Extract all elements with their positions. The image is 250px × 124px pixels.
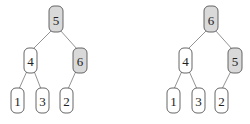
node-label: 1	[170, 94, 177, 109]
node-label: 5	[232, 54, 239, 69]
tree-node-ll: 1	[11, 88, 24, 113]
tree-after-swap: 645132	[167, 6, 242, 113]
node-label: 2	[63, 94, 70, 109]
tree-before-swap: 546132	[11, 6, 87, 113]
node-label: 6	[77, 54, 84, 69]
edge-left-ll	[19, 71, 27, 89]
node-label: 6	[208, 13, 215, 28]
edge-left-ll	[174, 71, 182, 89]
tree-node-right: 5	[228, 48, 242, 73]
node-label: 4	[27, 54, 34, 69]
nodes-layer: 546132645132	[11, 6, 242, 113]
tree-node-left: 4	[24, 48, 37, 73]
tree-node-rl: 2	[215, 88, 228, 113]
tree-node-right: 6	[73, 48, 87, 73]
node-label: 3	[195, 94, 202, 109]
tree-node-rl: 2	[60, 88, 73, 113]
heap-swap-diagram: 546132645132	[0, 0, 250, 124]
edge-root-left	[33, 30, 52, 49]
tree-node-lr: 3	[192, 88, 205, 113]
edge-root-left	[188, 30, 207, 49]
edge-root-right	[60, 30, 77, 49]
node-label: 3	[39, 94, 46, 109]
node-label: 5	[53, 13, 60, 28]
edge-left-lr	[189, 71, 197, 89]
edge-root-right	[215, 30, 232, 49]
node-label: 4	[182, 54, 189, 69]
tree-node-root: 6	[204, 6, 218, 32]
node-label: 1	[14, 94, 21, 109]
edge-right-rl	[68, 71, 76, 89]
tree-node-left: 4	[179, 48, 192, 73]
node-label: 2	[218, 94, 225, 109]
tree-node-root: 5	[49, 6, 63, 32]
tree-node-ll: 1	[167, 88, 180, 113]
edge-right-rl	[222, 71, 231, 89]
tree-node-lr: 3	[36, 88, 49, 113]
edge-left-lr	[34, 71, 41, 89]
